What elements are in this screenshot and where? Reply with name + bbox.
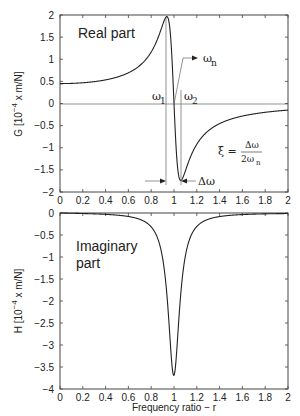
y-tick-label: −0.5 <box>34 230 54 241</box>
imag-y-ticks: 0−0.5−1−1.5−2−2.5−3−3.5−4 <box>34 208 288 395</box>
y-tick-label: −2 <box>43 187 55 198</box>
x-tick-label: 0.4 <box>99 392 113 403</box>
y-tick-label: −1 <box>43 252 55 263</box>
delta-omega-annotation: Δω <box>145 175 215 188</box>
x-tick-label: 0 <box>57 195 63 206</box>
svg-text:Δω: Δω <box>198 175 215 188</box>
svg-text:G [10−4 x m/N]: G [10−4 x m/N] <box>10 71 24 136</box>
x-tick-label: 1.6 <box>235 195 249 206</box>
y-tick-label: 1 <box>48 54 54 65</box>
y-tick-label: −1.5 <box>34 274 54 285</box>
y-tick-label: 0.5 <box>40 76 54 87</box>
imag-part-label-line1: Imaginary <box>76 238 137 254</box>
x-tick-label: 1.2 <box>190 195 204 206</box>
x-axis-label: Frequency ratio − r <box>132 402 217 413</box>
x-tick-label: 2 <box>285 392 291 403</box>
x-tick-label: 0.2 <box>76 195 90 206</box>
svg-text:2: 2 <box>192 96 198 106</box>
y-tick-label: −2.5 <box>34 318 54 329</box>
svg-text:n: n <box>211 58 217 68</box>
damping-formula: ξ = Δω 2ω n <box>218 140 262 167</box>
x-tick-label: 0.2 <box>76 392 90 403</box>
y-tick-label: 1.5 <box>40 32 54 43</box>
x-tick-label: 0.4 <box>99 195 113 206</box>
x-tick-label: 0.8 <box>144 195 158 206</box>
imag-part-label-line2: part <box>76 255 100 271</box>
x-tick-label: 1.8 <box>258 195 272 206</box>
x-tick-label: 2 <box>285 195 291 206</box>
svg-text:1: 1 <box>160 96 166 106</box>
svg-text:n: n <box>256 159 261 167</box>
y-tick-label: −1.5 <box>34 164 54 175</box>
y-tick-label: −0.5 <box>34 120 54 131</box>
y-tick-label: −2 <box>43 296 55 307</box>
y-tick-label: −4 <box>43 384 55 395</box>
y-tick-label: 2 <box>48 10 54 21</box>
x-tick-label: 1.4 <box>213 195 227 206</box>
x-tick-label: 0 <box>57 392 63 403</box>
omega1-label: ω 1 <box>152 90 166 106</box>
x-tick-label: 1 <box>171 195 177 206</box>
arrow-head-icon <box>192 56 198 61</box>
imaginary-part-plot: 0−0.5−1−1.5−2−2.5−3−3.5−4 00.20.40.60.81… <box>10 208 291 414</box>
x-tick-label: 1.6 <box>235 392 249 403</box>
imag-y-axis-label: H [10−4 x m/N] <box>10 268 24 333</box>
real-y-axis-label: G [10−4 x m/N] <box>10 71 24 136</box>
svg-text:ξ =: ξ = <box>218 145 237 158</box>
arrow-right-icon <box>160 179 166 184</box>
real-part-label: Real part <box>78 25 135 41</box>
y-tick-label: −1 <box>43 142 55 153</box>
real-part-plot: 21.510.50−0.5−1−1.5−2 00.20.40.60.811.21… <box>10 10 291 207</box>
omega2-label: ω 2 <box>184 90 198 106</box>
x-tick-label: 1.8 <box>258 392 272 403</box>
svg-text:H [10−4 x m/N]: H [10−4 x m/N] <box>10 268 24 333</box>
y-tick-label: 0 <box>48 98 54 109</box>
y-tick-label: 0 <box>48 208 54 219</box>
y-tick-label: −3 <box>43 340 55 351</box>
figure: 21.510.50−0.5−1−1.5−2 00.20.40.60.811.21… <box>0 0 300 416</box>
svg-text:Δω: Δω <box>245 140 259 150</box>
y-tick-label: −3.5 <box>34 362 54 373</box>
x-tick-label: 0.6 <box>121 195 135 206</box>
svg-text:2ω: 2ω <box>241 154 254 164</box>
